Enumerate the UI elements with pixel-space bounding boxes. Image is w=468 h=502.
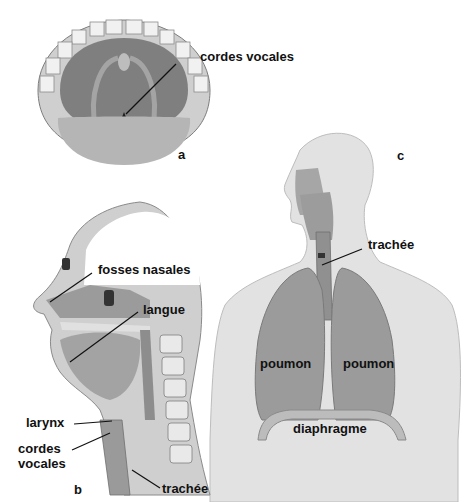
label-trachee-b: trachée [162,482,208,496]
label-langue: langue [143,303,185,317]
label-cordes-vocales-b-line1: cordes [18,442,61,456]
panel-a-mouth [38,20,210,165]
label-trachee-c: trachée [368,238,414,252]
label-cordes-vocales-b-line2: vocales [18,457,66,471]
label-larynx: larynx [26,416,64,430]
panel-letter-c: c [397,148,404,163]
label-poumon-right: poumon [343,357,394,371]
panel-letter-a: a [178,147,185,162]
label-cordes-vocales-a: cordes vocales [200,50,294,64]
label-fosses-nasales: fosses nasales [98,263,191,277]
panel-c-torso [210,133,460,502]
label-diaphragme: diaphragme [293,422,367,436]
label-poumon-left: poumon [260,357,311,371]
panel-letter-b: b [74,482,82,497]
